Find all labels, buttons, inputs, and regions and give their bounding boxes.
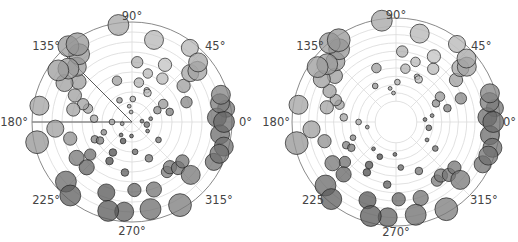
scatter-point xyxy=(405,204,426,225)
polar-scatter-figure: 0° 45° 90° 135° 180° 225° 270° 315° 0° 4… xyxy=(0,0,518,242)
scatter-point xyxy=(339,156,350,167)
scatter-point xyxy=(121,169,129,177)
scatter-point xyxy=(30,96,49,115)
scatter-point xyxy=(401,64,411,74)
scatter-point xyxy=(427,50,440,63)
scatter-point xyxy=(320,101,333,114)
scatter-point xyxy=(365,125,369,129)
scatter-point xyxy=(130,96,136,102)
scatter-point xyxy=(143,69,153,79)
scatter-point xyxy=(413,190,428,205)
scatter-point xyxy=(106,157,114,165)
scatter-point xyxy=(392,91,396,95)
scatter-point xyxy=(289,95,308,114)
scatter-point xyxy=(383,181,391,189)
right-theta-label-270: 270° xyxy=(382,225,410,239)
scatter-point xyxy=(67,103,80,116)
left-theta-label-180: 180° xyxy=(0,115,28,129)
scatter-point xyxy=(140,199,161,220)
scatter-point xyxy=(377,154,383,160)
scatter-point xyxy=(388,87,392,91)
scatter-point xyxy=(435,92,445,102)
left-theta-label-45: 45° xyxy=(205,39,225,53)
scatter-point xyxy=(392,193,405,206)
left-theta-label-135: 135° xyxy=(32,39,60,53)
scatter-point xyxy=(307,57,328,78)
scatter-point xyxy=(432,146,438,152)
scatter-point xyxy=(158,58,171,71)
scatter-point xyxy=(480,84,499,103)
scatter-point xyxy=(318,135,331,148)
scatter-point xyxy=(395,79,401,85)
scatter-point xyxy=(47,120,64,137)
left-theta-label-270: 270° xyxy=(118,224,146,238)
scatter-point xyxy=(146,182,161,197)
scatter-point xyxy=(60,185,81,206)
scatter-point xyxy=(360,206,381,227)
scatter-point xyxy=(348,144,356,152)
scatter-point xyxy=(189,53,208,72)
scatter-point xyxy=(356,119,362,125)
scatter-point xyxy=(96,137,104,145)
scatter-point xyxy=(397,46,408,57)
scatter-point xyxy=(415,76,423,84)
scatter-point xyxy=(415,167,423,175)
scatter-point xyxy=(156,137,162,143)
scatter-point xyxy=(423,118,427,122)
scatter-point xyxy=(444,104,452,112)
scatter-point xyxy=(68,89,81,102)
scatter-point xyxy=(90,115,98,123)
scatter-point xyxy=(211,85,230,104)
right-theta-label-225: 225 xyxy=(302,193,324,207)
right-theta-label-180: 180° xyxy=(262,115,290,129)
scatter-point xyxy=(132,57,143,68)
scatter-point xyxy=(166,108,174,116)
scatter-point xyxy=(435,198,458,221)
scatter-point xyxy=(26,131,49,154)
right-theta-label-0: 0° xyxy=(503,115,516,129)
scatter-point xyxy=(140,119,144,123)
right-theta-label-90: 90° xyxy=(386,8,406,22)
scatter-point xyxy=(181,97,192,108)
scatter-point xyxy=(365,161,373,169)
scatter-point xyxy=(426,125,432,131)
scatter-point xyxy=(158,99,168,109)
scatter-point xyxy=(479,146,498,165)
scatter-point xyxy=(157,73,168,84)
left-theta-label-225: 225° xyxy=(32,193,60,207)
left-theta-label-0: 0° xyxy=(239,115,252,129)
scatter-point xyxy=(128,183,141,196)
scatter-point xyxy=(372,147,376,151)
scatter-point xyxy=(340,114,348,122)
right-theta-label-135: 135° xyxy=(296,39,324,53)
scatter-point xyxy=(101,129,107,135)
scatter-point xyxy=(145,155,153,163)
scatter-point xyxy=(130,134,134,138)
scatter-point xyxy=(411,57,421,67)
scatter-point xyxy=(181,165,200,184)
scatter-point xyxy=(149,117,153,121)
scatter-point xyxy=(127,104,131,108)
left-theta-label-90: 90° xyxy=(122,9,142,23)
scatter-point xyxy=(214,112,235,133)
scatter-point xyxy=(109,149,117,157)
scatter-point xyxy=(66,33,89,56)
scatter-point xyxy=(410,24,429,43)
scatter-point xyxy=(336,167,351,182)
scatter-point xyxy=(325,156,340,171)
scatter-point xyxy=(119,133,123,137)
right-theta-label-45: 45° xyxy=(471,39,491,53)
scatter-point xyxy=(134,78,144,88)
scatter-point xyxy=(117,97,123,103)
scatter-point xyxy=(425,138,429,142)
scatter-point xyxy=(210,144,229,163)
scatter-point xyxy=(393,153,397,157)
scatter-point xyxy=(455,93,466,104)
scatter-point xyxy=(145,30,164,49)
scatter-point xyxy=(363,169,371,177)
scatter-point xyxy=(48,60,69,81)
scatter-point xyxy=(132,149,138,155)
scatter-point xyxy=(428,63,439,74)
scatter-point xyxy=(430,114,434,118)
scatter-point xyxy=(451,170,470,189)
